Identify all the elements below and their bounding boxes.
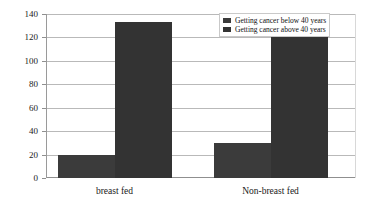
y-tick-label-100: 100	[0, 57, 38, 66]
y-tick-label-20: 20	[0, 151, 38, 160]
bar-breast-fed-below-40	[58, 155, 115, 178]
y-tick-label-40: 40	[0, 127, 38, 136]
plot-area	[46, 14, 356, 178]
legend-swatch-above-40-icon	[223, 27, 231, 32]
y-tick-mark-0	[42, 178, 46, 179]
y-tick-label-80: 80	[0, 80, 38, 89]
y-axis: 140 120 100 80 60 40 20 0	[0, 0, 41, 210]
legend: Getting cancer below 40 years Getting ca…	[219, 13, 330, 37]
legend-label-above-40: Getting cancer above 40 years	[235, 26, 326, 34]
y-tick-label-120: 120	[0, 33, 38, 42]
x-axis-label-non-breast-fed: Non-breast fed	[213, 186, 328, 196]
bar-non-breast-fed-above-40	[271, 37, 328, 178]
bar-non-breast-fed-below-40	[214, 143, 271, 178]
legend-label-below-40: Getting cancer below 40 years	[235, 17, 326, 25]
y-tick-label-60: 60	[0, 104, 38, 113]
legend-item-below-40: Getting cancer below 40 years	[223, 17, 326, 25]
legend-swatch-below-40-icon	[223, 18, 231, 23]
y-tick-label-140: 140	[0, 10, 38, 19]
x-axis-label-breast-fed: breast fed	[57, 186, 172, 196]
bar-breast-fed-above-40	[115, 22, 172, 178]
legend-item-above-40: Getting cancer above 40 years	[223, 26, 326, 34]
bar-chart: 140 120 100 80 60 40 20 0 breast fed Non…	[0, 0, 377, 210]
y-tick-label-0: 0	[0, 174, 38, 183]
